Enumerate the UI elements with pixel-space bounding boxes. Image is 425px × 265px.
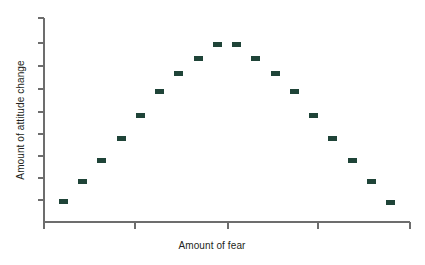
- data-point: [155, 89, 164, 94]
- data-point-group: [59, 42, 395, 205]
- x-axis: [44, 222, 410, 229]
- data-point: [328, 136, 337, 141]
- x-axis-label: Amount of fear: [179, 240, 247, 251]
- y-axis: [38, 18, 44, 222]
- x-axis-ticks: [44, 222, 410, 229]
- data-point: [290, 89, 299, 94]
- data-point: [213, 42, 222, 47]
- data-point: [232, 42, 241, 47]
- chart-container: Amount of fear Amount of attitude change: [0, 0, 425, 265]
- data-point: [309, 113, 318, 118]
- data-point: [117, 136, 126, 141]
- data-point: [367, 179, 376, 184]
- data-point: [348, 158, 357, 163]
- data-point: [194, 56, 203, 61]
- data-point: [59, 199, 68, 204]
- data-point: [386, 200, 395, 205]
- data-point: [251, 56, 260, 61]
- data-point: [136, 113, 145, 118]
- data-point: [174, 71, 183, 76]
- data-point: [271, 71, 280, 76]
- y-axis-label: Amount of attitude change: [15, 60, 26, 180]
- scatter-plot: Amount of fear Amount of attitude change: [0, 0, 425, 265]
- y-axis-ticks: [38, 18, 44, 200]
- data-point: [97, 158, 106, 163]
- data-point: [78, 179, 87, 184]
